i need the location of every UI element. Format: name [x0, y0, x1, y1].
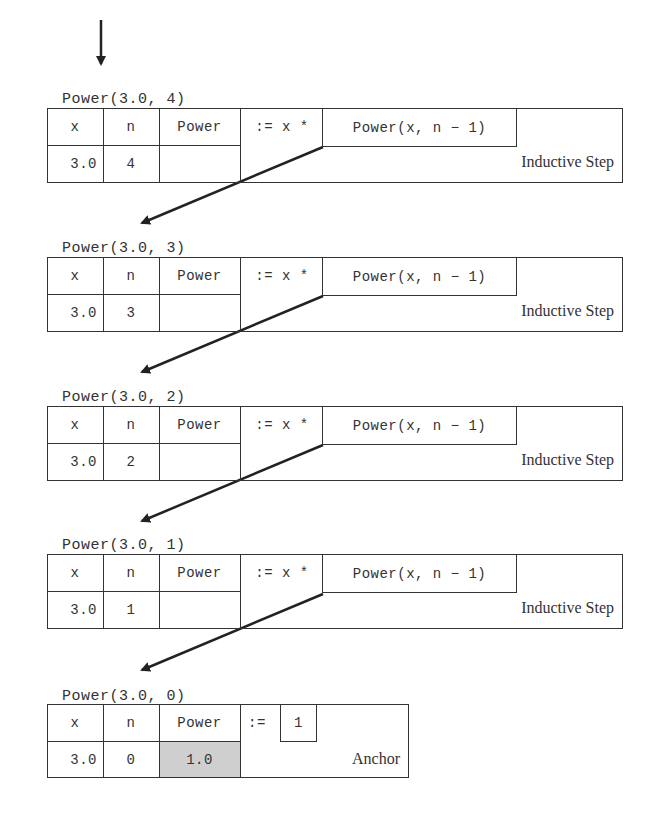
frame-title: Power(3.0, 1): [62, 537, 186, 554]
inductive-step-label: Inductive Step: [420, 153, 614, 171]
header-power: Power: [159, 108, 240, 145]
header-power: Power: [159, 406, 240, 443]
recursive-call: Power(x, n − 1): [322, 554, 517, 593]
header-power: Power: [159, 257, 240, 294]
recursive-call: Power(x, n − 1): [322, 406, 517, 445]
recursive-call: Power(x, n − 1): [322, 108, 517, 147]
value-n: 1: [103, 591, 159, 628]
value-x: 3.0: [47, 145, 103, 182]
value-power: [159, 591, 240, 628]
header-x: x: [47, 257, 103, 294]
value-n: 0: [103, 741, 159, 778]
frame-title: Power(3.0, 4): [62, 91, 186, 108]
header-x: x: [47, 406, 103, 443]
recursive-call: Power(x, n − 1): [322, 257, 517, 296]
inductive-step-label: Inductive Step: [420, 451, 614, 469]
value-power: [159, 443, 240, 480]
header-n: n: [103, 704, 159, 741]
anchor-label: Anchor: [240, 750, 400, 768]
value-power: 1.0: [159, 741, 240, 778]
header-power: Power: [159, 704, 240, 741]
base-value-box: 1: [280, 704, 317, 742]
value-n: 2: [103, 443, 159, 480]
frame-title: Power(3.0, 2): [62, 389, 186, 406]
header-x: x: [47, 108, 103, 145]
header-n: n: [103, 257, 159, 294]
assign-expression: := x *: [242, 257, 322, 294]
value-n: 3: [103, 294, 159, 331]
value-power: [159, 145, 240, 182]
assign-expression: := x *: [242, 108, 322, 145]
frame-title: Power(3.0, 0): [62, 688, 186, 705]
value-x: 3.0: [47, 443, 103, 480]
value-x: 3.0: [47, 294, 103, 331]
assign-operator: :=: [242, 704, 280, 741]
header-n: n: [103, 554, 159, 591]
inductive-step-label: Inductive Step: [420, 599, 614, 617]
header-x: x: [47, 704, 103, 741]
header-power: Power: [159, 554, 240, 591]
value-x: 3.0: [47, 741, 103, 778]
assign-expression: := x *: [242, 554, 322, 591]
assign-expression: := x *: [242, 406, 322, 443]
frame-title: Power(3.0, 3): [62, 240, 186, 257]
header-n: n: [103, 406, 159, 443]
header-x: x: [47, 554, 103, 591]
value-x: 3.0: [47, 591, 103, 628]
header-n: n: [103, 108, 159, 145]
value-n: 4: [103, 145, 159, 182]
value-power: [159, 294, 240, 331]
inductive-step-label: Inductive Step: [420, 302, 614, 320]
